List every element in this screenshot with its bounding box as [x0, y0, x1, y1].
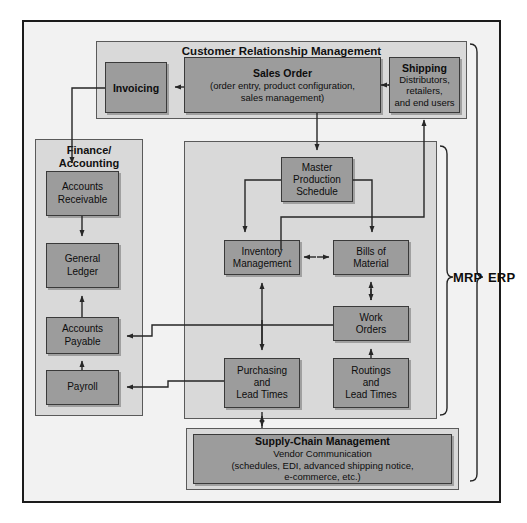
- node-accounts-payable[interactable]: Accounts Payable: [46, 317, 119, 354]
- accounts-payable-label: Accounts Payable: [50, 323, 115, 348]
- general-ledger-label: General Ledger: [50, 253, 115, 278]
- master-production-schedule-label: Master Production Schedule: [285, 162, 349, 198]
- shipping-subtitle: Distributors, retailers, and end users: [393, 74, 456, 109]
- erp-bracket-label: ERP: [488, 270, 515, 285]
- node-sales-order[interactable]: Sales Order (order entry, product config…: [184, 57, 381, 113]
- invoicing-title: Invoicing: [109, 82, 163, 94]
- supply-chain-management-subtitle: Vendor Communication (schedules, EDI, ad…: [197, 448, 448, 483]
- node-routings-and-lead-times[interactable]: Routings and Lead Times: [333, 358, 409, 408]
- node-work-orders[interactable]: Work Orders: [333, 306, 409, 341]
- routings-and-lead-times-label: Routings and Lead Times: [337, 365, 405, 401]
- purchasing-and-lead-times-label: Purchasing and Lead Times: [228, 365, 296, 401]
- node-accounts-receivable[interactable]: Accounts Receivable: [46, 171, 119, 216]
- accounts-receivable-label: Accounts Receivable: [50, 181, 115, 206]
- node-purchasing-and-lead-times[interactable]: Purchasing and Lead Times: [224, 358, 300, 408]
- crm-panel-title: Customer Relationship Management: [97, 45, 466, 57]
- bills-of-material-label: Bills of Material: [337, 246, 405, 270]
- node-shipping[interactable]: Shipping Distributors, retailers, and en…: [389, 57, 460, 113]
- diagram-canvas: Customer Relationship Management Invoici…: [0, 0, 527, 523]
- supply-chain-management-title: Supply-Chain Management: [197, 435, 448, 447]
- node-bills-of-material[interactable]: Bills of Material: [333, 240, 409, 275]
- sales-order-subtitle: (order entry, product configuration, sal…: [188, 80, 377, 104]
- shipping-title: Shipping: [393, 62, 456, 74]
- node-general-ledger[interactable]: General Ledger: [46, 243, 119, 288]
- node-supply-chain-management[interactable]: Supply-Chain Management Vendor Communica…: [193, 434, 452, 484]
- node-invoicing[interactable]: Invoicing: [105, 62, 167, 113]
- payroll-label: Payroll: [50, 381, 115, 394]
- sales-order-title: Sales Order: [188, 67, 377, 79]
- finance-panel-title: Finance/ Accounting: [36, 144, 142, 169]
- node-inventory-management[interactable]: Inventory Management: [224, 240, 300, 275]
- node-payroll[interactable]: Payroll: [46, 370, 119, 405]
- mrp-bracket-label: MRP: [453, 270, 483, 285]
- inventory-management-label: Inventory Management: [228, 246, 296, 270]
- node-master-production-schedule[interactable]: Master Production Schedule: [281, 157, 353, 202]
- work-orders-label: Work Orders: [337, 312, 405, 336]
